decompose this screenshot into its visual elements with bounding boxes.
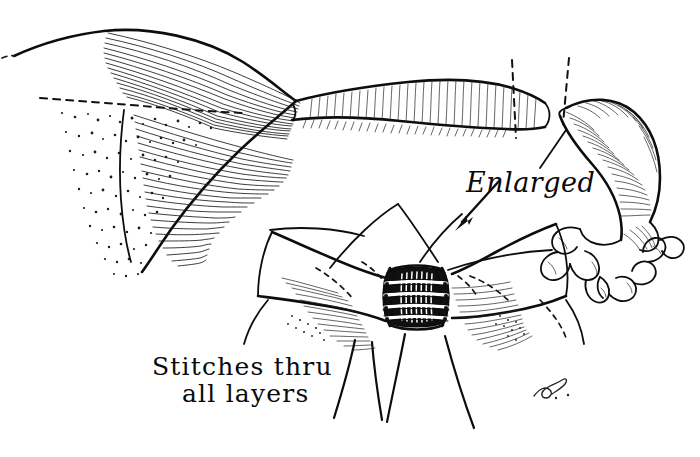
signature-dot (555, 397, 557, 399)
anastomosis-site (383, 266, 449, 330)
stitches-caption-line-2: all layers (182, 379, 309, 408)
stitches-caption-line-1: Stitches thru (152, 352, 333, 381)
surgical-illustration: Enlarged (0, 0, 700, 457)
illustration-background (0, 0, 700, 457)
signature-dot-2 (567, 394, 569, 396)
enlarged-label: Enlarged (465, 167, 595, 198)
